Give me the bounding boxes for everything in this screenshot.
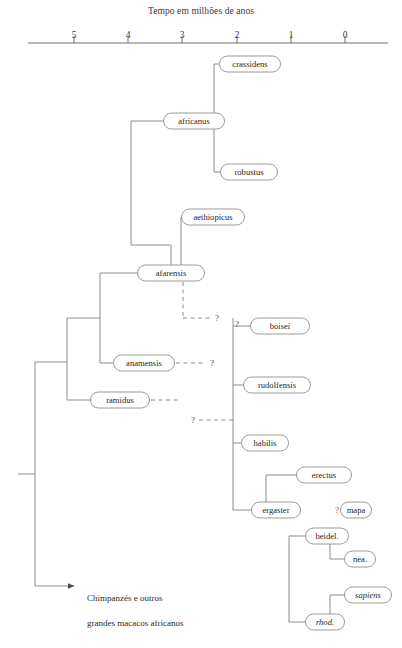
taxon-node-afarensis[interactable]: afarensis <box>137 265 205 282</box>
outgroup-label-line1: Chimpanzés e outros <box>87 593 163 603</box>
axis-tick-label: 0 <box>343 30 348 40</box>
taxon-node-aethiopicus[interactable]: aethiopicus <box>181 209 245 226</box>
taxon-node-robustus[interactable]: robustus <box>220 164 278 181</box>
phylogenetic-tree-diagram: Tempo em milhões de anos 543210 crasside… <box>0 0 402 648</box>
taxon-node-africanus[interactable]: africanus <box>163 113 225 130</box>
branch-lines <box>18 64 344 622</box>
taxon-node-erectus[interactable]: erectus <box>296 467 352 484</box>
q-mapa: ? <box>335 505 339 515</box>
taxon-node-ergaster[interactable]: ergaster <box>251 502 301 519</box>
taxon-node-anamensis[interactable]: anamensis <box>113 355 175 372</box>
q-boisei: ? <box>235 319 239 329</box>
axis-tick-label: 1 <box>289 30 294 40</box>
outgroup-label: Chimpanzés e outros grandes macacos afri… <box>78 579 183 642</box>
taxon-node-rhod[interactable]: rhod. <box>305 614 345 631</box>
taxon-node-rudolfensis[interactable]: rudolfensis <box>243 377 311 394</box>
axis-tick-label: 4 <box>126 30 131 40</box>
taxon-node-mapa[interactable]: mapa <box>340 502 372 519</box>
axis-tick-label: 2 <box>235 30 240 40</box>
tree-lines-layer <box>0 0 402 648</box>
q-anamensis: ? <box>210 358 214 368</box>
taxon-node-boisei[interactable]: boisei <box>250 318 310 335</box>
taxon-node-habilis[interactable]: habilis <box>241 435 289 452</box>
outgroup-label-line2: grandes macacos africanos <box>87 618 183 628</box>
time-axis <box>28 36 388 43</box>
taxon-node-heidel[interactable]: heidel. <box>305 528 349 545</box>
taxon-node-nea[interactable]: nea. <box>344 551 376 568</box>
q-habilis: ? <box>191 415 195 425</box>
axis-tick-label: 5 <box>72 30 77 40</box>
uncertain-branch-lines <box>151 282 233 420</box>
taxon-node-ramidus[interactable]: ramidus <box>90 392 150 409</box>
axis-tick-label: 3 <box>180 30 185 40</box>
taxon-node-crassidens[interactable]: crassidens <box>219 56 281 73</box>
q-afarensis: ? <box>215 313 219 323</box>
taxon-node-sapiens[interactable]: sapiens <box>344 587 392 604</box>
